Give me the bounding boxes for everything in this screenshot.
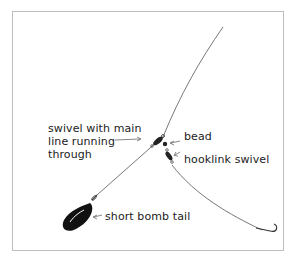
label-running-swivel: swivel with main line running through xyxy=(48,122,142,161)
arrow-bead-icon xyxy=(170,141,180,145)
arrow-bomb-icon xyxy=(93,215,102,219)
running-swivel-icon xyxy=(151,135,165,148)
bead-icon xyxy=(163,142,167,146)
hook-icon xyxy=(256,224,277,231)
main-line xyxy=(163,27,223,137)
hooklink-swivel-icon xyxy=(164,149,174,164)
label-short-bomb-tail: short bomb tail xyxy=(105,210,190,223)
rig-illustration xyxy=(0,0,297,263)
arrow-hooklink-icon xyxy=(174,152,180,156)
label-line: line running xyxy=(48,135,142,148)
label-hooklink-swivel: hooklink swivel xyxy=(184,153,269,166)
label-line: through xyxy=(48,148,142,161)
bomb-lead-icon xyxy=(63,195,97,231)
label-line: swivel with main xyxy=(48,122,142,135)
label-bead: bead xyxy=(184,130,212,143)
